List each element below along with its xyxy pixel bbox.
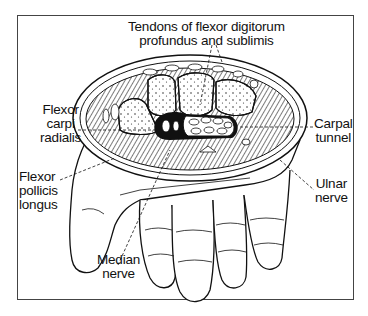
- label-ulnar-nerve: Ulnar nerve: [315, 177, 348, 205]
- label-line: profundus and sublimis: [128, 34, 285, 48]
- label-carpal-tunnel: Carpal tunnel: [314, 117, 353, 145]
- label-line: Ulnar: [315, 177, 348, 191]
- wrist-cross-section: [73, 55, 307, 181]
- label-line: nerve: [315, 191, 348, 205]
- label-median-nerve: Median nerve: [97, 253, 140, 281]
- label-line: radialis: [40, 131, 81, 145]
- label-line: Tendons of flexor digitorum: [128, 20, 285, 34]
- label-line: Carpal: [314, 117, 353, 131]
- label-flexor-carpi-radialis: Flexor carpi radialis: [40, 103, 81, 145]
- label-line: Flexor: [19, 170, 58, 184]
- label-line: Median: [97, 253, 140, 267]
- label-line: pollicis: [19, 184, 58, 198]
- label-line: tunnel: [314, 131, 353, 145]
- label-line: carpi: [40, 117, 81, 131]
- label-line: Flexor: [40, 103, 81, 117]
- label-line: longus: [19, 198, 58, 212]
- label-tendons-flexor-digitorum: Tendons of flexor digitorum profundus an…: [128, 20, 285, 48]
- label-line: nerve: [97, 267, 140, 281]
- label-flexor-pollicis-longus: Flexor pollicis longus: [19, 170, 58, 212]
